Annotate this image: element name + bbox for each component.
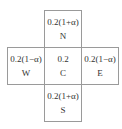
- cell-east: 0.2(1−α) E: [81, 47, 119, 85]
- cell-west-value: 0.2(1−α): [10, 52, 42, 66]
- cell-south-label: S: [60, 103, 65, 117]
- cell-east-value: 0.2(1−α): [84, 52, 116, 66]
- cell-west-label: W: [22, 66, 31, 80]
- cell-south-value: 0.2(1+α): [47, 89, 79, 103]
- cell-north-label: N: [60, 29, 67, 43]
- cell-north: 0.2(1+α) N: [44, 10, 82, 48]
- cell-center-label: C: [60, 66, 66, 80]
- cell-south: 0.2(1+α) S: [44, 84, 82, 122]
- cell-center-value: 0.2: [57, 52, 68, 66]
- cell-center: 0.2 C: [44, 47, 82, 85]
- cell-east-label: E: [97, 66, 103, 80]
- cell-north-value: 0.2(1+α): [47, 15, 79, 29]
- cell-west: 0.2(1−α) W: [7, 47, 45, 85]
